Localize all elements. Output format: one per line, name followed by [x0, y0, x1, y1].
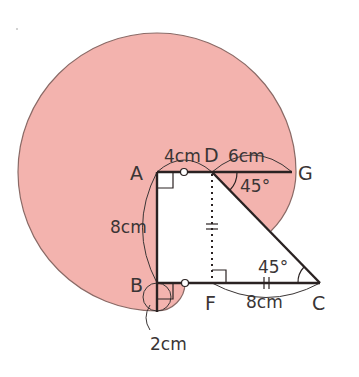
speck — [16, 28, 18, 30]
label-f: F — [205, 292, 216, 314]
angle-dcb: 45° — [258, 257, 288, 277]
measure-dg: 6cm — [228, 146, 265, 166]
measure-b-radius: 2cm — [150, 334, 187, 354]
label-a: A — [130, 162, 143, 184]
label-d: D — [204, 144, 219, 166]
mark-circle-bf — [182, 280, 189, 287]
angle-gdc: 45° — [240, 176, 270, 196]
measure-ab: 8cm — [110, 217, 147, 237]
geometry-figure: A D G B F C 4cm 6cm 8cm 8cm 2cm 45° 45° — [0, 0, 359, 377]
label-b: B — [130, 274, 143, 296]
label-g: G — [298, 162, 313, 184]
measure-ad: 4cm — [164, 146, 201, 166]
measure-fc: 8cm — [246, 292, 283, 312]
label-c: C — [312, 292, 325, 314]
mark-circle-ad — [181, 169, 188, 176]
